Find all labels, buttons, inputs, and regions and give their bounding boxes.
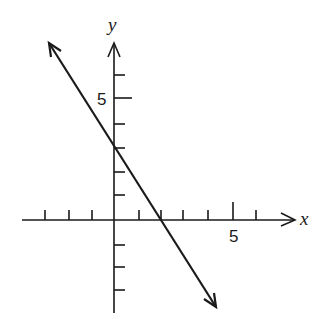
y-tick-label-5: 5 bbox=[97, 90, 106, 109]
coordinate-plane: y x 5 5 bbox=[0, 0, 331, 319]
line-arrow-up-icon bbox=[49, 43, 61, 57]
plotted-line bbox=[49, 43, 216, 307]
x-axis-label: x bbox=[299, 208, 309, 229]
line-arrow-down-icon bbox=[204, 293, 216, 307]
x-tick-label-5: 5 bbox=[229, 227, 238, 246]
y-axis-label: y bbox=[106, 14, 117, 35]
y-ticks bbox=[114, 75, 132, 290]
